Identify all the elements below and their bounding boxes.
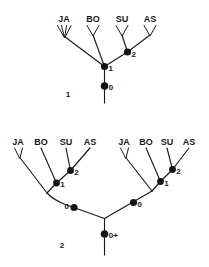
panel1-node-dot-0: [101, 82, 109, 90]
panel1-tip-prongs-su: [116, 26, 128, 36]
panel2-right-branches: [105, 148, 190, 219]
panel2-left-tip-prongs-ja: [15, 148, 23, 158]
panel-2: JA BO SU AS: [12, 137, 195, 255]
panel2-root: 0+: [101, 219, 119, 256]
panel2-right-node-dot-2: [169, 166, 176, 173]
panel2-right-node-label-0: 0: [138, 200, 143, 209]
panel2-right-node-dot-0: [130, 199, 137, 206]
panel1-tip-label-as: AS: [144, 14, 157, 24]
panel1-tip-prongs-as: [144, 26, 156, 36]
panel1-node-label-2: 2: [132, 50, 137, 59]
panel1-tip-label-bo: BO: [86, 14, 100, 24]
panel1-branches: [65, 35, 151, 103]
panel2-right-tip-label-ja: JA: [118, 137, 130, 147]
panel2-left-tip-label-bo: BO: [34, 137, 48, 147]
panel1-tip-prongs-ja: [58, 26, 72, 38]
panel2-left-tip-label-ja: JA: [12, 137, 24, 147]
panel2-left-node-dot-0: [70, 204, 77, 211]
panel2-right-node-dot-1: [157, 178, 164, 185]
panel1-number: 1: [66, 90, 71, 99]
panel2-right-node-label-2: 2: [176, 167, 181, 176]
panel1-node-label-0: 0: [109, 83, 114, 92]
panel2-left-tip-label-su: SU: [60, 137, 73, 147]
panel-1: JA BO SU AS: [58, 14, 157, 103]
panel2-left-node-dot-1: [53, 180, 60, 187]
panel2-left-node-dot-2: [67, 167, 74, 174]
panel2-right-tip-label-bo: BO: [139, 137, 153, 147]
panel1-node-dot-1: [101, 63, 108, 70]
phylogenetic-trees-figure: JA BO SU AS: [0, 0, 209, 267]
panel1-tip-label-ja: JA: [58, 14, 70, 24]
panel2-root-node-dot: [101, 230, 109, 238]
panel2-right-tip-prongs-ja: [121, 148, 129, 158]
panel1-tip-prongs-bo: [87, 26, 99, 36]
panel2-left-node-label-1: 1: [60, 180, 65, 189]
figure-root: JA BO SU AS: [0, 0, 209, 267]
panel2-right-tip-label-as: AS: [183, 137, 196, 147]
panel2-left-subtree: JA BO SU AS: [12, 137, 104, 219]
panel2-left-tip-label-as: AS: [84, 137, 97, 147]
panel1-node-dot-2: [124, 48, 131, 55]
panel2-right-subtree: JA BO SU AS: [105, 137, 196, 219]
panel1-node-label-1: 1: [109, 64, 114, 73]
panel2-right-node-label-1: 1: [164, 179, 169, 188]
panel2-number: 2: [60, 241, 65, 250]
panel1-nodes: 2 1 0: [101, 48, 137, 92]
panel2-left-node-label-0: 0: [65, 202, 70, 211]
panel1-tip-label-su: SU: [116, 14, 129, 24]
panel2-root-node-label: 0+: [109, 231, 118, 240]
panel2-right-tip-label-su: SU: [161, 137, 174, 147]
panel2-left-node-label-2: 2: [74, 168, 79, 177]
